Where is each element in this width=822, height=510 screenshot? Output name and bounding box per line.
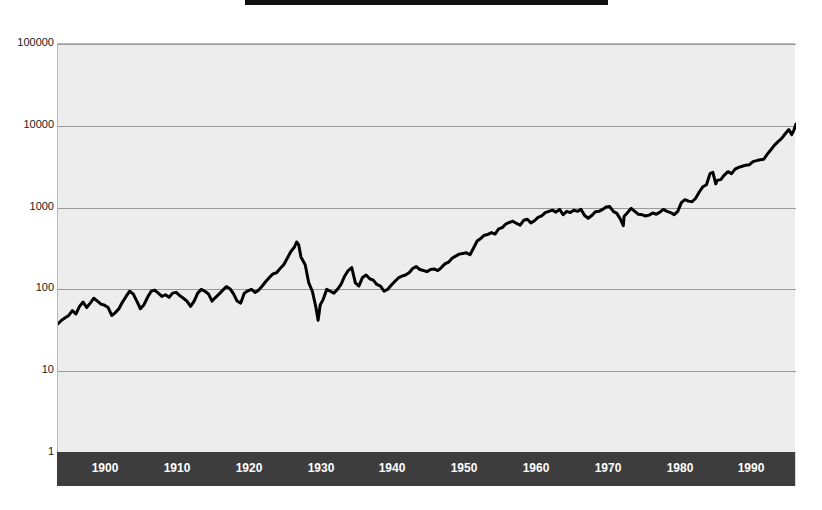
data-line-index-level — [58, 124, 796, 324]
x-tick-label-1900: 1900 — [92, 461, 119, 475]
y-tick-label-10000: 10000 — [2, 119, 54, 130]
chart-figure: Stock Market Index 1896-1999 10000010000… — [0, 0, 822, 510]
x-tick-label-1940: 1940 — [379, 461, 406, 475]
chart-canvas — [58, 44, 796, 453]
x-axis-band: 1900191019201930194019501960197019801990 — [57, 452, 795, 486]
x-tick-label-1920: 1920 — [236, 461, 263, 475]
x-tick-label-1990: 1990 — [738, 461, 765, 475]
y-tick-label-1: 1 — [2, 446, 54, 457]
chart-title-bar: Stock Market Index 1896-1999 — [245, 0, 608, 5]
x-axis-band-edge — [795, 452, 796, 486]
x-tick-label-1950: 1950 — [451, 461, 478, 475]
y-tick-label-100: 100 — [2, 282, 54, 293]
x-tick-label-1960: 1960 — [523, 461, 550, 475]
y-tick-label-10: 10 — [2, 364, 54, 375]
page-title: Stock Market Index 1896-1999 — [245, 0, 608, 1]
y-axis: 100000100001000100101 — [0, 0, 54, 510]
y-tick-label-1000: 1000 — [2, 201, 54, 212]
x-tick-label-1930: 1930 — [308, 461, 335, 475]
x-tick-label-1980: 1980 — [667, 461, 694, 475]
plot-area — [57, 43, 795, 452]
y-tick-label-100000: 100000 — [2, 37, 54, 48]
x-tick-label-1910: 1910 — [164, 461, 191, 475]
gridlines — [58, 45, 796, 454]
x-tick-label-1970: 1970 — [595, 461, 622, 475]
